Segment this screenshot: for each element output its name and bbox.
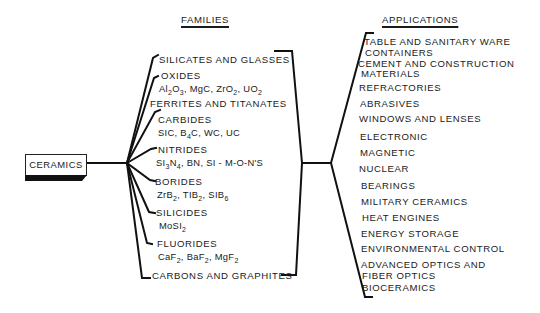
app-nuclear: NUCLEAR [359,163,409,174]
applications-header: APPLICATIONS [382,14,458,25]
app-abrasives: ABRASIVES [360,98,420,109]
family-ferrites-and-titanates: FERRITES AND TITANATES [150,98,287,109]
family-carbides: CARBIDES [158,114,212,125]
app-table-and-sanitary-ware: TABLE AND SANITARY WARE [364,36,511,47]
family-oxides: OXIDES [161,70,201,81]
family-silicates-and-glasses: SILICATES AND GLASSES [159,54,290,65]
family-carbides-formulas: SIC, B4C, WC, UC [158,127,240,138]
family-silicides-formulas: MoSI2 [159,220,186,231]
app-magnetic: MAGNETIC [360,147,415,158]
app-electronic: ELECTRONIC [360,131,428,142]
app-advanced-optics-and: ADVANCED OPTICS AND [361,259,486,270]
app-military-ceramics: MILITARY CERAMICS [361,196,468,207]
family-fluorides: FLUORIDES [157,238,217,249]
families-header: FAMILIES [181,14,229,25]
app-heat-engines: HEAT ENGINES [362,212,440,223]
app-containers: CONTAINERS [365,47,433,58]
family-borides-formulas: ZrB2, TIB2, SIB6 [157,189,229,200]
family-nitrides-formulas: SI3N4, BN, SI - M-O-N'S [156,157,263,168]
family-oxides-formulas: Al2O3, MgC, ZrO2, UO2 [159,83,262,94]
family-fluorides-formulas: CaF2, BaF2, MgF2 [158,251,239,262]
app-environmental-control: ENVIRONMENTAL CONTROL [361,243,505,254]
app-windows-and-lenses: WINDOWS AND LENSES [359,113,481,124]
family-borides: BORIDES [155,176,202,187]
family-nitrides: NITRIDES [158,144,208,155]
app-bearings: BEARINGS [361,180,415,191]
family-silicides: SILICIDES [156,207,208,218]
app-fiber-optics: FIBER OPTICS [362,270,436,281]
family-carbons-and-graphites: CARBONS AND GRAPHITES [152,270,293,281]
app-energy-storage: ENERGY STORAGE [361,228,459,239]
app-refractories: REFRACTORIES [359,82,441,93]
app-materials: MATERIALS [361,68,420,79]
app-bioceramics: BIOCERAMICS [362,282,436,293]
